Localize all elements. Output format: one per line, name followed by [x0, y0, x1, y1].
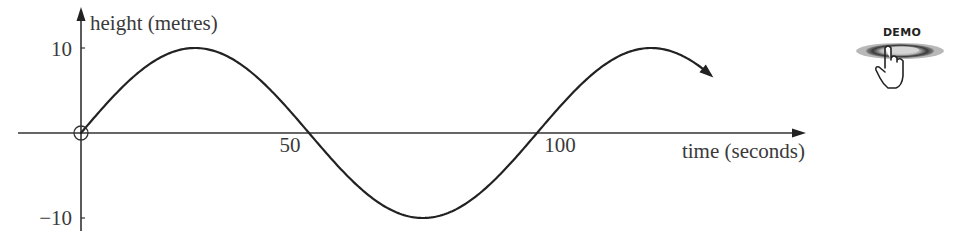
x-axis-arrow-icon	[792, 129, 806, 138]
x-tick-label-100: 100	[544, 133, 576, 157]
demo-button[interactable]: DEMO	[852, 26, 952, 106]
sine-chart: height (metres) 10 −10 50 100 time (seco…	[0, 0, 957, 243]
hand-pointer-icon	[852, 26, 952, 106]
x-axis-label: time (seconds)	[682, 139, 805, 163]
y-axis-arrow-icon	[77, 7, 86, 21]
y-axis-label: height (metres)	[90, 11, 218, 35]
y-tick-label-10: 10	[51, 37, 72, 61]
x-tick-label-50: 50	[280, 133, 301, 157]
y-tick-label-minus-10: −10	[39, 206, 72, 230]
